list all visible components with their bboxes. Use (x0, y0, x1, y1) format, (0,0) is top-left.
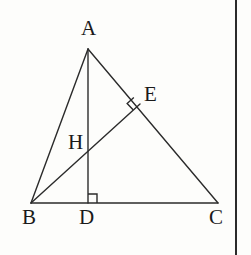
segment-altitude-BE (31, 104, 140, 203)
vertex-label-B: B (22, 207, 36, 228)
geometry-figure: A B C D E H (0, 0, 251, 255)
vertex-label-H: H (68, 132, 83, 153)
right-angle-at-D-icon (88, 194, 97, 203)
segment-side-AC (88, 49, 218, 203)
page-border-rule (235, 0, 237, 255)
segments-group (31, 49, 218, 203)
vertex-label-D: D (79, 207, 94, 228)
segment-side-AB (31, 49, 88, 203)
right-angle-marks-group (88, 97, 134, 203)
vertex-label-C: C (209, 207, 223, 228)
vertex-label-E: E (144, 84, 157, 105)
vertex-label-A: A (81, 18, 96, 39)
